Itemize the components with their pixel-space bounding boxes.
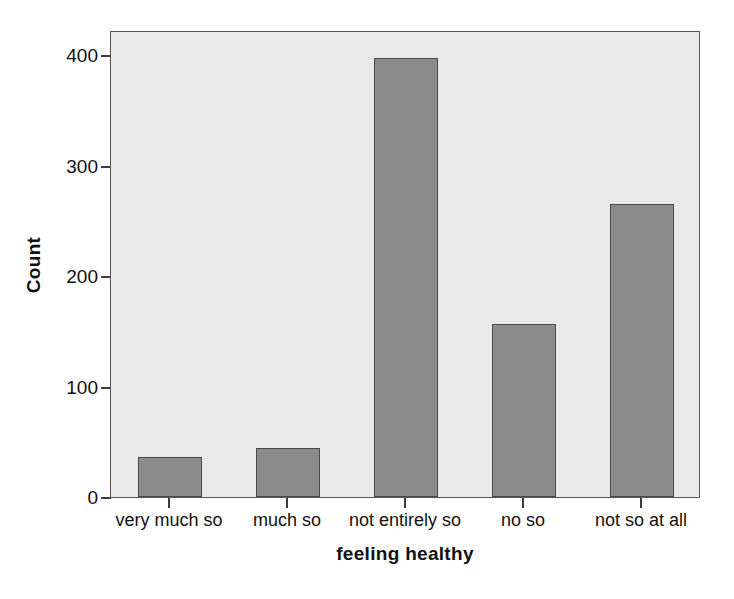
x-axis-tick-mark xyxy=(168,498,170,508)
x-axis-tick-label: not entirely so xyxy=(349,510,461,531)
x-axis-tick-mark xyxy=(522,498,524,508)
x-axis-title: feeling healthy xyxy=(110,543,700,565)
bar xyxy=(138,457,202,497)
bar xyxy=(256,448,320,497)
y-axis-tick-label: 200 xyxy=(40,266,98,288)
x-axis-tick-mark xyxy=(640,498,642,508)
y-axis-tick-label: 0 xyxy=(40,487,98,509)
bar xyxy=(374,58,438,497)
bars-container xyxy=(111,32,699,497)
x-axis-tick-label: no so xyxy=(501,510,545,531)
bar xyxy=(492,324,556,497)
bar xyxy=(610,204,674,497)
x-axis-tick-labels: very much somuch sonot entirely sono son… xyxy=(0,510,734,538)
x-axis-tick-label: very much so xyxy=(115,510,222,531)
y-axis-tick-label: 100 xyxy=(40,377,98,399)
y-axis-tick-label: 400 xyxy=(40,45,98,67)
x-axis-tick-label: much so xyxy=(253,510,321,531)
y-axis-tick-label: 300 xyxy=(40,156,98,178)
plot-area xyxy=(110,31,700,498)
x-axis-tick-mark xyxy=(404,498,406,508)
x-axis-tick-mark xyxy=(286,498,288,508)
bar-chart-figure: Count 0100200300400 very much somuch son… xyxy=(0,0,734,599)
x-axis-tick-label: not so at all xyxy=(595,510,687,531)
